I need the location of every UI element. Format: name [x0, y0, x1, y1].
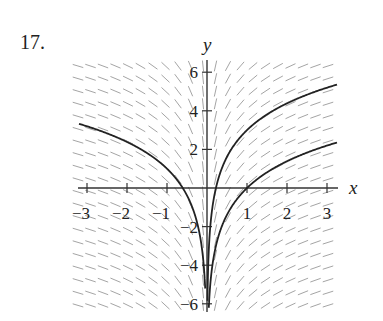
slope-segment	[323, 291, 333, 294]
slope-segment	[98, 77, 108, 81]
slope-segment	[123, 114, 133, 119]
slope-segment	[149, 264, 158, 270]
slope-segment	[161, 87, 169, 94]
slope-segment	[273, 189, 283, 194]
slope-segment	[175, 150, 182, 159]
slope-segment	[161, 125, 169, 132]
slope-segment	[273, 63, 283, 68]
slope-segment	[286, 290, 296, 295]
slope-segment	[237, 301, 244, 309]
slope-segment	[273, 152, 283, 157]
slope-segment	[98, 89, 108, 93]
y-tick-label: −2	[180, 218, 198, 237]
slope-segment	[237, 263, 244, 271]
x-tick-label: −1	[152, 204, 170, 223]
slope-segment	[110, 76, 120, 80]
slope-segment	[110, 265, 120, 269]
slope-segment	[237, 226, 244, 234]
slope-segment	[298, 253, 308, 257]
slope-segment	[310, 278, 320, 282]
slope-segment	[237, 238, 244, 246]
slope-segment	[149, 239, 158, 245]
slope-segment	[225, 86, 230, 96]
slope-segment	[110, 165, 120, 169]
slope-segment	[286, 240, 296, 245]
slope-segment	[98, 240, 108, 244]
slope-segment	[85, 253, 95, 256]
slope-segment	[175, 200, 182, 209]
slope-segment	[261, 176, 270, 182]
slope-segment	[310, 102, 320, 106]
slope-segment	[73, 228, 84, 231]
slope-segment	[149, 252, 158, 258]
slope-segment	[202, 161, 203, 172]
slope-segment	[149, 63, 158, 69]
slope-segment	[161, 176, 169, 183]
slope-segment	[73, 115, 84, 118]
slope-segment	[175, 276, 182, 285]
slope-segment	[188, 162, 192, 172]
slope-segment	[323, 253, 333, 256]
slope-segment	[149, 138, 158, 144]
slope-segment	[98, 140, 108, 144]
slope-segment	[323, 90, 333, 93]
slope-segment	[310, 165, 320, 169]
y-tick-label: 4	[190, 102, 199, 121]
slope-segment	[323, 190, 333, 193]
slope-segment	[261, 126, 270, 132]
slope-segment	[298, 165, 308, 169]
slope-segment	[123, 89, 133, 94]
slope-segment	[286, 278, 296, 283]
slope-segment	[98, 228, 108, 232]
slope-segment	[73, 291, 84, 294]
slope-segment	[85, 228, 95, 231]
slope-segment	[214, 61, 216, 72]
slope-segment	[175, 125, 182, 134]
slope-segment	[175, 74, 182, 83]
slope-segment	[225, 74, 230, 84]
slope-segment	[214, 287, 216, 298]
slope-segment	[98, 64, 108, 68]
slope-segment	[323, 64, 333, 67]
slope-segment	[298, 127, 308, 131]
slope-segment	[73, 64, 84, 67]
slope-segment	[273, 177, 283, 182]
slope-segment	[110, 89, 120, 93]
slope-segment	[73, 165, 84, 168]
slope-segment	[73, 127, 84, 130]
slope-segment	[98, 266, 108, 270]
slope-segment	[237, 289, 244, 297]
slope-segment	[225, 162, 230, 172]
slope-segment	[85, 178, 95, 181]
slope-segment	[188, 124, 192, 134]
slope-segment	[249, 277, 257, 284]
slope-segment	[110, 190, 120, 194]
slope-segment	[261, 151, 270, 157]
slope-segment	[123, 190, 133, 195]
slope-segment	[136, 164, 146, 170]
slope-segment	[249, 88, 257, 95]
y-tick-label: 6	[190, 63, 199, 82]
slope-segment	[225, 301, 230, 311]
slope-segment	[249, 138, 257, 145]
slope-segment	[261, 101, 270, 107]
slope-segment	[149, 227, 158, 233]
slope-segment	[273, 126, 283, 131]
slope-segment	[136, 240, 146, 246]
slope-segment	[310, 152, 320, 156]
slope-segment	[286, 152, 296, 157]
slope-segment	[149, 75, 158, 81]
slope-segment	[273, 265, 283, 270]
slope-segment	[161, 264, 169, 271]
slope-segment	[323, 140, 333, 143]
slope-segment	[202, 275, 203, 286]
slope-segment	[323, 102, 333, 105]
slope-segment	[310, 190, 320, 194]
slope-segment	[202, 98, 203, 109]
slope-segment	[202, 149, 203, 160]
slope-segment	[136, 202, 146, 208]
slope-segment	[273, 114, 283, 119]
slope-segment	[161, 113, 169, 120]
slope-segment	[273, 290, 283, 295]
slope-segment	[85, 278, 95, 281]
